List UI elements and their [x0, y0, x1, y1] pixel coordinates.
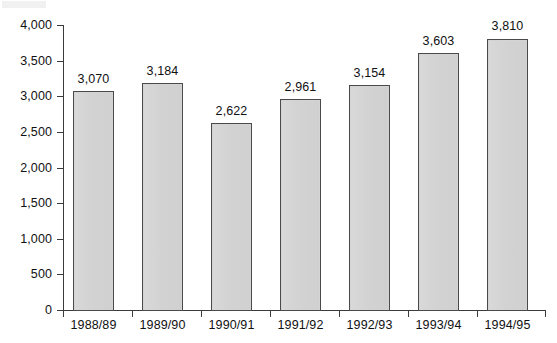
y-axis-tick-label: 1,500 — [6, 197, 52, 210]
x-axis-tick — [545, 311, 546, 317]
x-axis-category-label: 1992/93 — [339, 319, 400, 332]
y-axis-tick-label: 3,000 — [6, 90, 52, 103]
x-axis-tick — [339, 311, 340, 317]
y-axis-tick — [57, 132, 64, 133]
x-axis-tick — [477, 311, 478, 317]
x-axis-tick — [408, 311, 409, 317]
y-axis-tick-label: 0 — [6, 304, 52, 317]
y-axis-tick — [57, 203, 64, 204]
y-axis-tick-label: 2,000 — [6, 162, 52, 175]
y-axis-tick — [57, 61, 64, 62]
bar-value-label: 2,961 — [270, 81, 331, 94]
bar-1991-92[interactable] — [280, 99, 321, 311]
x-axis-tick — [132, 311, 133, 317]
bar-value-label: 3,810 — [477, 20, 538, 33]
bar-1988-89[interactable] — [73, 91, 114, 311]
bar-value-label: 3,184 — [132, 65, 193, 78]
x-axis-category-label: 1991/92 — [270, 319, 331, 332]
x-axis-tick — [201, 311, 202, 317]
x-axis-category-label: 1993/94 — [408, 319, 469, 332]
bar-value-label: 2,622 — [201, 105, 262, 118]
y-axis-tick-label: 4,000 — [6, 19, 52, 32]
bar-1992-93[interactable] — [349, 85, 390, 311]
bar-1990-91[interactable] — [211, 123, 252, 311]
y-axis-tick — [57, 25, 64, 26]
y-axis-tick-label: 2,500 — [6, 126, 52, 139]
bar-1993-94[interactable] — [418, 53, 459, 311]
bar-chart-figure: 4,000 3,500 3,000 2,500 2,000 1,500 1,00… — [0, 0, 557, 343]
y-axis-tick-label: 500 — [6, 268, 52, 281]
bar-value-label: 3,154 — [339, 67, 400, 80]
bar-1994-95[interactable] — [487, 39, 528, 312]
x-axis-category-label: 1988/89 — [63, 319, 124, 332]
x-axis-tick — [63, 311, 64, 317]
bar-1989-90[interactable] — [142, 83, 183, 311]
bar-value-label: 3,603 — [408, 35, 469, 48]
x-axis-category-label: 1990/91 — [201, 319, 262, 332]
y-axis-tick-label: 1,000 — [6, 233, 52, 246]
y-axis-tick — [57, 168, 64, 169]
y-axis-tick — [57, 96, 64, 97]
plot-area: 4,000 3,500 3,000 2,500 2,000 1,500 1,00… — [0, 0, 557, 343]
y-axis-tick-label: 3,500 — [6, 55, 52, 68]
x-axis-category-label: 1989/90 — [132, 319, 193, 332]
y-axis-tick — [57, 274, 64, 275]
x-axis-category-label: 1994/95 — [477, 319, 538, 332]
bar-value-label: 3,070 — [63, 73, 124, 86]
y-axis-tick — [57, 239, 64, 240]
x-axis-tick — [270, 311, 271, 317]
